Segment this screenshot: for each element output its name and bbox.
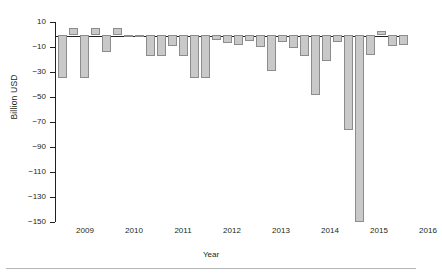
bar xyxy=(102,35,111,53)
y-tick-mark xyxy=(50,97,55,98)
bar xyxy=(113,28,122,34)
x-tick-label: 2015 xyxy=(359,226,399,235)
y-tick-mark xyxy=(50,222,55,223)
footer-divider xyxy=(6,268,416,269)
x-tick-label: 2013 xyxy=(261,226,301,235)
bar xyxy=(201,35,210,79)
bar xyxy=(168,35,177,46)
bar xyxy=(212,35,221,40)
bar xyxy=(157,35,166,56)
bar xyxy=(223,35,232,44)
y-tick-mark xyxy=(50,147,55,148)
bar xyxy=(377,31,386,35)
bar xyxy=(91,28,100,34)
bar xyxy=(80,35,89,79)
y-tick-label: 10 xyxy=(0,16,46,27)
y-tick-label: −70 xyxy=(0,116,46,127)
y-tick-label: −150 xyxy=(0,216,46,227)
bar xyxy=(278,35,287,43)
bar xyxy=(388,35,397,46)
bar xyxy=(146,35,155,56)
bar xyxy=(256,35,265,48)
bar xyxy=(69,28,78,34)
y-tick-mark xyxy=(50,47,55,48)
y-tick-label: −30 xyxy=(0,66,46,77)
bar xyxy=(300,35,309,56)
bar xyxy=(289,35,298,49)
bar xyxy=(58,35,67,79)
x-axis-title: Year xyxy=(0,250,422,259)
bar xyxy=(135,35,144,38)
y-tick-mark xyxy=(50,172,55,173)
y-tick-label: −10 xyxy=(0,41,46,52)
y-tick-label: −90 xyxy=(0,141,46,152)
y-axis-line xyxy=(55,22,56,222)
bar xyxy=(311,35,320,95)
bar xyxy=(322,35,331,61)
y-tick-label: −110 xyxy=(0,166,46,177)
x-tick-label: 2009 xyxy=(65,226,105,235)
bar xyxy=(366,35,375,55)
bar xyxy=(267,35,276,71)
y-tick-label: −50 xyxy=(0,91,46,102)
bar xyxy=(399,35,408,45)
bar xyxy=(124,35,133,37)
bar xyxy=(355,35,364,223)
x-tick-label: 2010 xyxy=(114,226,154,235)
y-tick-mark xyxy=(50,122,55,123)
y-tick-mark xyxy=(50,197,55,198)
x-tick-label: 2011 xyxy=(163,226,203,235)
bar xyxy=(190,35,199,79)
x-tick-label: 2014 xyxy=(310,226,350,235)
bar xyxy=(344,35,353,130)
x-tick-label: 2012 xyxy=(212,226,252,235)
y-tick-mark xyxy=(50,22,55,23)
bar xyxy=(333,35,342,43)
bar xyxy=(234,35,243,45)
y-tick-mark xyxy=(50,72,55,73)
bar xyxy=(245,35,254,41)
y-tick-label: −130 xyxy=(0,191,46,202)
bar xyxy=(179,35,188,56)
x-tick-label: 2016 xyxy=(408,226,442,235)
